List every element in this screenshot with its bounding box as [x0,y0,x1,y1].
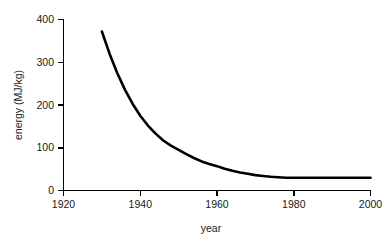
y-axis-ticks [58,20,64,191]
y-axis-tick-labels: 0 100 200 300 400 [36,13,54,196]
y-tick-label-400: 400 [36,13,54,25]
x-axis-title: year [201,222,222,234]
y-tick-label-300: 300 [36,56,54,68]
y-tick-label-200: 200 [36,99,54,111]
chart-figure: 0 100 200 300 400 1920 1940 1960 1980 20… [0,0,390,250]
energy-decay-curve [102,31,371,177]
line-chart: 0 100 200 300 400 1920 1940 1960 1980 20… [0,0,390,250]
y-tick-label-100: 100 [36,141,54,153]
x-tick-label-1940: 1940 [129,198,153,210]
x-tick-label-2000: 2000 [359,198,383,210]
y-axis-title: energy (MJ/kg) [12,70,24,140]
y-tick-label-0: 0 [48,184,54,196]
x-axis-ticks [64,191,371,197]
x-axis-tick-labels: 1920 1940 1960 1980 2000 [52,198,383,210]
x-tick-label-1920: 1920 [52,198,76,210]
x-tick-label-1960: 1960 [205,198,229,210]
x-tick-label-1980: 1980 [282,198,306,210]
